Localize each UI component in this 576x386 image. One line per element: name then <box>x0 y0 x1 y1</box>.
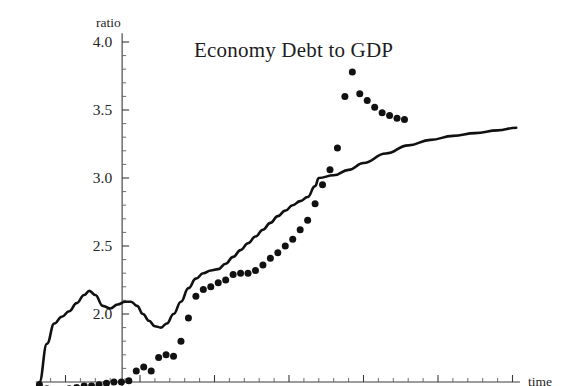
series-data-point <box>237 270 244 277</box>
series-data-point <box>379 109 386 116</box>
series-data-point <box>88 383 95 386</box>
series-data-point <box>364 97 371 104</box>
series-data-point <box>215 279 222 286</box>
series-data-point <box>252 267 259 274</box>
series-data-point <box>133 368 140 375</box>
series-data-point <box>356 90 363 97</box>
series-data-point <box>394 115 401 122</box>
series-data-point <box>401 116 408 123</box>
series-data-point <box>177 338 184 345</box>
series-data-point <box>185 315 192 322</box>
series-data-point <box>274 249 281 256</box>
series-data-point <box>371 104 378 111</box>
series-data-point <box>319 181 326 188</box>
series-data-point <box>289 236 296 243</box>
series-data-point <box>267 255 274 262</box>
series-data-point <box>230 271 237 278</box>
series-data-point <box>125 377 132 384</box>
series-data-point <box>155 354 162 361</box>
series-data-point <box>103 380 110 386</box>
series-data-point <box>163 351 170 358</box>
series-data-point <box>140 364 147 371</box>
series-data-point <box>282 243 289 250</box>
series-data-point <box>297 226 304 233</box>
series-data-point <box>118 379 125 386</box>
series-data-point <box>386 112 393 119</box>
series-data-point <box>334 145 341 152</box>
series-data-point <box>222 277 229 284</box>
plot-area <box>0 0 576 386</box>
series-data-point <box>341 93 348 100</box>
series-data-point <box>259 262 266 269</box>
data-series-group <box>36 68 516 386</box>
chart-figure: Economy Debt to GDP ratio time 4.0 3.5 3… <box>0 0 576 386</box>
series-data-point <box>304 217 311 224</box>
series-data-point <box>312 200 319 207</box>
series-data-point <box>148 368 155 375</box>
series-data-point <box>245 270 252 277</box>
series-data-point <box>170 353 177 360</box>
series-data-point <box>110 379 117 386</box>
series-data-point <box>81 383 88 386</box>
series-data-point <box>192 293 199 300</box>
y-axis <box>122 33 129 386</box>
series-data-point <box>326 166 333 173</box>
series-data-point <box>207 283 214 290</box>
series-data-point <box>349 68 356 75</box>
series-data-point <box>200 286 207 293</box>
